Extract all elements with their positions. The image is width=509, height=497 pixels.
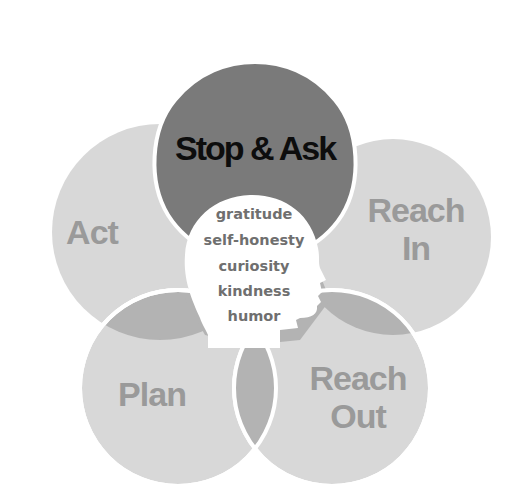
label-reach-out-line2: Out <box>330 397 386 435</box>
core-value: kindness <box>218 283 291 299</box>
label-reach-in-line1: Reach <box>367 191 464 229</box>
core-value: gratitude <box>216 206 293 222</box>
core-value: curiosity <box>219 258 291 274</box>
core-value: humor <box>228 308 282 324</box>
label-reach-out-line1: Reach <box>309 359 406 397</box>
core-value: self-honesty <box>204 232 306 248</box>
label-act: Act <box>66 213 118 251</box>
label-plan: Plan <box>118 375 186 413</box>
title-stop-and-ask: Stop & Ask <box>175 129 337 167</box>
five-petal-diagram: Stop & Ask Act Reach In Plan Reach Out g… <box>0 0 509 497</box>
label-reach-in-line2: In <box>402 229 430 267</box>
